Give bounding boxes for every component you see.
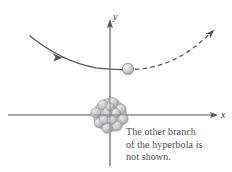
figure-caption: The other branch of the hyperbola is not… <box>126 126 230 164</box>
alpha-particle <box>122 63 133 74</box>
caption-line-2: of the hyperbola is <box>126 139 230 152</box>
x-axis-label: x <box>221 110 225 120</box>
hyperbola-scattering-figure: y x The other branch of the hyperbola is… <box>0 0 232 172</box>
y-axis <box>107 19 113 166</box>
alpha-particle-highlight <box>124 65 128 68</box>
incoming-path <box>30 36 122 70</box>
caption-line-1: The other branch <box>126 126 230 139</box>
outgoing-path <box>135 30 215 70</box>
nucleus-cluster <box>91 98 128 134</box>
y-axis-label: y <box>113 12 117 22</box>
caption-line-3: not shown. <box>126 151 230 164</box>
